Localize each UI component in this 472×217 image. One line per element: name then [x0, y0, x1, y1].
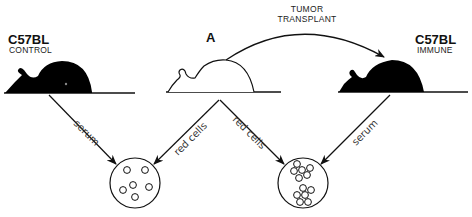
- black-mouse-icon: [5, 61, 92, 93]
- edge-left-serum: serum: [49, 95, 116, 164]
- transplant-label-line1: TUMOR: [291, 4, 324, 14]
- right-well: [278, 158, 328, 208]
- edge-center-red-cells-left: red cells: [154, 100, 219, 164]
- serum-arrow: [321, 95, 390, 164]
- center-strain-label: A: [206, 30, 216, 45]
- right-status-label: IMMUNE: [417, 45, 453, 55]
- left-well: [110, 158, 160, 208]
- black-mouse-icon: [339, 60, 424, 92]
- left-mouse-control: C57BL CONTROL: [4, 32, 135, 93]
- red-cells-label: red cells: [172, 120, 209, 157]
- edge-right-serum: serum: [321, 95, 390, 164]
- red-cells-arrow: [154, 100, 219, 164]
- center-mouse-a: A: [166, 30, 281, 92]
- mouse-eye-mark: [65, 83, 67, 85]
- transplant-immunity-diagram: C57BL CONTROL A C57BL IMMUNE TUMOR TRANS…: [0, 0, 472, 217]
- serum-label: serum: [350, 117, 380, 147]
- edge-center-red-cells-right: red cells: [220, 100, 284, 164]
- transplant-arc: [226, 34, 384, 60]
- serum-label: serum: [72, 118, 102, 148]
- white-mouse-icon: [168, 60, 254, 92]
- red-cells-label: red cells: [231, 114, 268, 151]
- tumor-transplant-arrow: TUMOR TRANSPLANT: [226, 4, 384, 60]
- left-status-label: CONTROL: [9, 45, 52, 55]
- transplant-label-line2: TRANSPLANT: [277, 14, 336, 24]
- right-mouse-immune: C57BL IMMUNE: [338, 32, 468, 92]
